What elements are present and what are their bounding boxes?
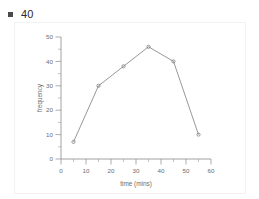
question-number: 40: [21, 9, 34, 20]
x-tick-label-0: 0: [59, 167, 63, 174]
square-bullet-icon: [8, 12, 13, 17]
x-tick-label-10: 10: [83, 167, 90, 174]
y-axis-title: frequency: [36, 83, 44, 112]
data-line-path: [74, 47, 199, 142]
x-tick-label-60: 60: [208, 167, 215, 174]
x-axis-title: time (mins): [120, 180, 152, 188]
line-chart-svg: 0 10 20 30 40 50: [15, 23, 245, 193]
y-tick-label-10: 10: [46, 131, 53, 138]
screenshot-page: 40 0 10: [0, 0, 259, 199]
chart-axes: [61, 37, 211, 159]
y-tick-label-0: 0: [50, 155, 54, 162]
x-tick-label-50: 50: [183, 167, 190, 174]
question-header: 40: [8, 8, 34, 20]
x-tick-label-40: 40: [158, 167, 165, 174]
y-tick-label-50: 50: [46, 33, 53, 40]
x-axis-ticks: 0 10 20 30 40 50 60: [59, 159, 215, 174]
x-tick-label-20: 20: [108, 167, 115, 174]
y-tick-label-40: 40: [46, 58, 53, 65]
y-tick-label-30: 30: [46, 82, 53, 89]
y-tick-label-20: 20: [46, 106, 53, 113]
y-axis-ticks: 0 10 20 30 40 50: [46, 33, 61, 162]
chart-figure: 0 10 20 30 40 50: [14, 22, 246, 194]
x-tick-label-30: 30: [133, 167, 140, 174]
data-series-frequency: [72, 45, 200, 143]
